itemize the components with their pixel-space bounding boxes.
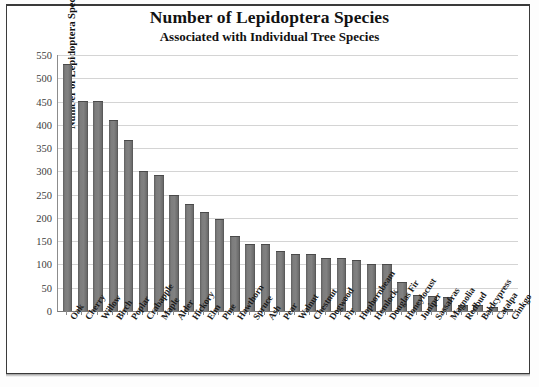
chart-title-block: Number of Lepidoptera Species Associated… [0, 8, 539, 44]
bar[interactable] [215, 219, 224, 311]
y-axis-tick-label: 300 [0, 166, 52, 177]
bar-slot [273, 55, 288, 311]
y-axis-tick-label: 50 [0, 282, 52, 293]
bar-slot [90, 55, 105, 311]
bar-slot [258, 55, 273, 311]
bar-slot [75, 55, 90, 311]
chart-title: Number of Lepidoptera Species [0, 8, 539, 28]
bar-slot [166, 55, 181, 311]
chart-subtitle: Associated with Individual Tree Species [0, 29, 539, 45]
y-axis-tick-label: 500 [0, 73, 52, 84]
bar[interactable] [276, 251, 285, 312]
bar-slot [212, 55, 227, 311]
bar-slot [242, 55, 257, 311]
y-axis-tick-label: 100 [0, 259, 52, 270]
y-axis-tick-label: 250 [0, 189, 52, 200]
y-axis-tick-label: 550 [0, 50, 52, 61]
y-axis-tick-label: 450 [0, 96, 52, 107]
x-axis-category-labels: OakCherryWillowBirchPoplarCrabappleMaple… [57, 316, 517, 382]
bar-slot [288, 55, 303, 311]
bar[interactable] [230, 236, 239, 311]
bar-slot [121, 55, 136, 311]
bar-slot [136, 55, 151, 311]
bar-slot [486, 55, 501, 311]
bar-slot [364, 55, 379, 311]
bar-slot [455, 55, 470, 311]
bar-slot [318, 55, 333, 311]
bar-slot [425, 55, 440, 311]
bar-slot [151, 55, 166, 311]
bar-slot [227, 55, 242, 311]
bar-slot [303, 55, 318, 311]
y-axis-tick-label: 150 [0, 236, 52, 247]
bar-slot [394, 55, 409, 311]
y-axis-tick-label: 200 [0, 212, 52, 223]
y-axis-tick-label: 350 [0, 143, 52, 154]
bar-slot [410, 55, 425, 311]
scanned-page: Number of Lepidoptera Species Associated… [0, 0, 539, 387]
bar-series [58, 55, 518, 311]
bar[interactable] [78, 101, 87, 311]
bar-slot [349, 55, 364, 311]
bar-slot [106, 55, 121, 311]
bar-slot [60, 55, 75, 311]
bar[interactable] [93, 101, 102, 311]
bar-slot [197, 55, 212, 311]
bar[interactable] [185, 204, 194, 311]
y-axis-tick-label: 400 [0, 119, 52, 130]
bar-slot [334, 55, 349, 311]
bar-slot [182, 55, 197, 311]
bar[interactable] [352, 260, 361, 311]
bar[interactable] [139, 171, 148, 311]
bar-slot [470, 55, 485, 311]
bar-slot [501, 55, 516, 311]
plot-area [57, 55, 518, 312]
y-axis-tick-label: 0 [0, 306, 52, 317]
x-axis-tick [66, 311, 67, 315]
bar-slot [440, 55, 455, 311]
bar[interactable] [109, 120, 118, 311]
y-axis-tick-labels: 550500450400350300250200150100500 [0, 55, 52, 311]
bar[interactable] [124, 140, 133, 311]
bar[interactable] [63, 64, 72, 311]
